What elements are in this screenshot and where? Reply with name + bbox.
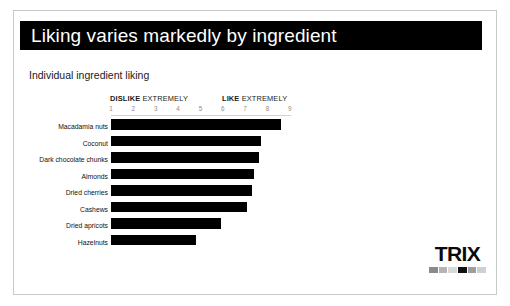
bar-category-label: Dark chocolate chunks (0, 154, 108, 165)
bar-label-wrap: Almonds (0, 171, 108, 182)
bar-category-label: Coconut (0, 138, 108, 149)
bar (111, 202, 247, 213)
logo-swatch-5 (468, 267, 477, 273)
x-tick-6: 6 (216, 105, 230, 112)
bar-label-wrap: Coconut (0, 138, 108, 149)
trix-logo-swatches (429, 267, 486, 273)
bar (111, 136, 261, 147)
bar-category-label: Almonds (0, 171, 108, 182)
scale-label-dislike-rest: EXTREMELY (140, 94, 188, 103)
scale-label-like: LIKE EXTREMELY (222, 94, 287, 103)
bar-label-wrap: Macadamia nuts (0, 121, 108, 132)
scale-label-dislike-bold: DISLIKE (110, 94, 140, 103)
bar-category-label: Dried cherries (0, 187, 108, 198)
bar (111, 185, 252, 196)
bar (111, 169, 254, 180)
bar-label-wrap: Cashews (0, 204, 108, 215)
bar-row: Macadamia nuts (0, 119, 510, 136)
logo-swatch-6 (477, 267, 486, 273)
trix-wordmark: TRIX (429, 243, 486, 265)
x-tick-2: 2 (126, 105, 140, 112)
logo-swatch-1 (429, 267, 438, 273)
bar-row: Cashews (0, 202, 510, 219)
logo-swatch-4 (458, 267, 467, 273)
bar-label-wrap: Dried apricots (0, 220, 108, 231)
x-axis-line (111, 115, 291, 116)
scale-label-like-bold: LIKE (222, 94, 239, 103)
bar-label-wrap: Dark chocolate chunks (0, 154, 108, 165)
bar (111, 119, 281, 130)
bar-row: Dried cherries (0, 185, 510, 202)
bar-row: Almonds (0, 169, 510, 186)
bar (111, 218, 221, 229)
bar-label-wrap: Hazelnuts (0, 237, 108, 248)
bar-row: Coconut (0, 136, 510, 153)
trix-logo: TRIX (429, 243, 486, 276)
bar-category-label: Dried apricots (0, 220, 108, 231)
scale-label-dislike: DISLIKE EXTREMELY (110, 94, 188, 103)
bar-category-label: Cashews (0, 204, 108, 215)
x-axis-ticks: 123456789 (111, 105, 290, 114)
bar-category-label: Macadamia nuts (0, 121, 108, 132)
x-tick-7: 7 (238, 105, 252, 112)
bar-label-wrap: Dried cherries (0, 187, 108, 198)
logo-swatch-3 (448, 267, 457, 273)
x-tick-5: 5 (193, 105, 207, 112)
bar-row: Dried apricots (0, 218, 510, 235)
x-tick-3: 3 (149, 105, 163, 112)
bar (111, 152, 259, 163)
scale-label-like-rest: EXTREMELY (239, 94, 287, 103)
x-tick-9: 9 (283, 105, 297, 112)
bar-row: Dark chocolate chunks (0, 152, 510, 169)
logo-swatch-2 (439, 267, 448, 273)
slide-canvas: Liking varies markedly by ingredient Ind… (0, 0, 510, 306)
bar (111, 235, 196, 246)
x-tick-1: 1 (104, 105, 118, 112)
bar-category-label: Hazelnuts (0, 237, 108, 248)
x-tick-8: 8 (260, 105, 274, 112)
x-tick-4: 4 (171, 105, 185, 112)
